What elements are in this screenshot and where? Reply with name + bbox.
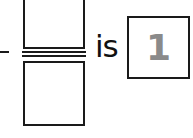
- answer-value: 1: [146, 30, 171, 66]
- fraction-bar-top-line: [22, 51, 86, 53]
- answer-box: 1: [127, 16, 190, 79]
- minus-sign: [0, 51, 9, 53]
- connector-text: is: [95, 31, 118, 62]
- numerator-input-box[interactable]: [23, 0, 85, 49]
- fraction-bar-bottom-line: [22, 55, 86, 57]
- denominator-input-box[interactable]: [23, 61, 85, 126]
